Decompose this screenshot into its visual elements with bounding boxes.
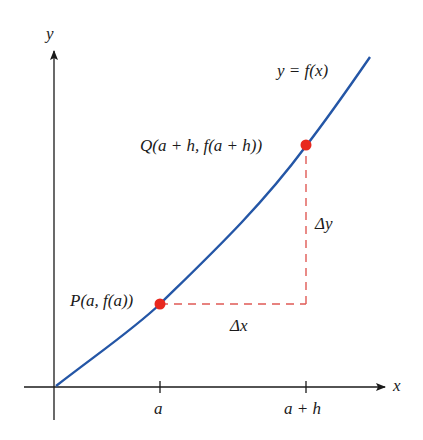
diagram-canvas: y x a a + h y = f(x) Q(a + h, f(a + h)) …: [0, 0, 423, 440]
delta-x-label: Δx: [230, 317, 248, 334]
y-axis-label: y: [46, 25, 54, 42]
delta-y-label: Δy: [315, 215, 333, 232]
point-q: [301, 140, 312, 151]
diagram-svg: [0, 0, 423, 440]
x-tick-label-a-plus-h: a + h: [284, 400, 321, 417]
x-tick-label-a: a: [154, 400, 163, 417]
point-q-label: Q(a + h, f(a + h)): [140, 137, 262, 154]
curve-label: y = f(x): [277, 62, 328, 79]
point-p-label: P(a, f(a)): [70, 292, 133, 309]
point-p: [155, 299, 166, 310]
x-axis-label: x: [393, 377, 401, 394]
